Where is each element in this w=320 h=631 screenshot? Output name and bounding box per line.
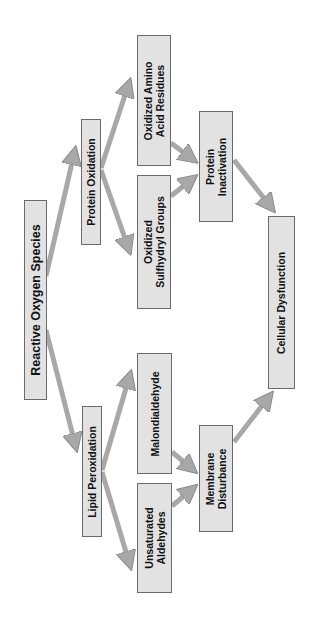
- node-label: Cellular Dysfunction: [276, 251, 288, 353]
- node-malondialdehyde: Malondialdehyde: [137, 353, 172, 474]
- node-protein-inactivation: Protein Inactivation: [199, 111, 233, 222]
- node-label: Protein Oxidation: [85, 138, 97, 226]
- node-oxidized-sulfhydryl-groups: Oxidized Sulfhydryl Groups: [137, 175, 171, 309]
- node-label: Oxidized Amino Acid Residues: [142, 61, 166, 140]
- node-label: Protein Inactivation: [204, 137, 228, 195]
- arrow-malondialdehyde-to-membrane-disturbance: [172, 452, 191, 468]
- arrow-protein-oxidation-to-oxidized-amino: [101, 86, 128, 168]
- node-label: Oxidized Sulfhydryl Groups: [142, 196, 166, 288]
- node-label: Malondialdehyde: [149, 371, 161, 456]
- node-unsaturated-aldehydes: Unsaturated Aldehydes: [137, 483, 172, 593]
- node-cellular-dysfunction: Cellular Dysfunction: [268, 216, 295, 389]
- node-reactive-oxygen-species: Reactive Oxygen Species: [24, 200, 47, 400]
- node-label: Reactive Oxygen Species: [30, 224, 42, 375]
- arrow-membrane-disturbance-to-cellular-dysfunction: [234, 398, 268, 442]
- node-membrane-disturbance: Membrane Disturbance: [199, 425, 233, 532]
- arrow-oxidized-sulfhydryl-to-protein-inactivation: [171, 180, 191, 196]
- node-label: Unsaturated Aldehydes: [143, 507, 167, 568]
- arrow-protein-inactivation-to-cellular-dysfunction: [234, 160, 270, 206]
- node-label: Membrane Disturbance: [204, 448, 228, 509]
- arrow-oxidized-amino-to-protein-inactivation: [171, 143, 191, 158]
- arrow-ros-to-lipid-peroxidation: [46, 330, 75, 444]
- node-lipid-peroxidation: Lipid Peroxidation: [82, 406, 102, 537]
- node-label: Lipid Peroxidation: [86, 426, 98, 518]
- arrow-unsaturated-aldehydes-to-membrane-disturbance: [172, 490, 191, 506]
- arrow-protein-oxidation-to-oxidized-sulfhydryl: [101, 170, 128, 247]
- node-protein-oxidation: Protein Oxidation: [81, 119, 101, 245]
- arrow-lipid-peroxidation-to-unsaturated-aldehydes: [102, 472, 129, 562]
- arrow-lipid-peroxidation-to-malondialdehyde: [102, 378, 129, 470]
- node-oxidized-amino-acid-residues: Oxidized Amino Acid Residues: [137, 35, 171, 166]
- arrow-ros-to-protein-oxidation: [46, 154, 74, 276]
